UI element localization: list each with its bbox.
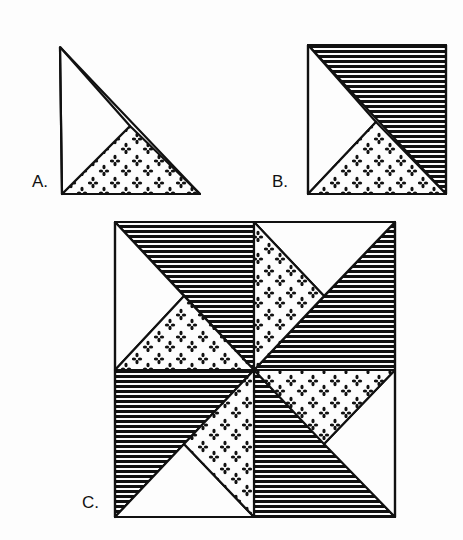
label-a: A.	[32, 172, 48, 192]
label-c: C.	[82, 493, 99, 513]
block-c	[115, 222, 395, 517]
label-b: B.	[272, 172, 288, 192]
unit-a	[60, 47, 200, 194]
unit-b	[308, 45, 446, 194]
quilt-diagram	[0, 0, 463, 540]
